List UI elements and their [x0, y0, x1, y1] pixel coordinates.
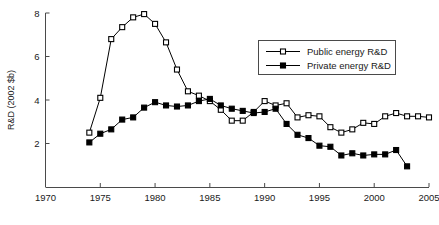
data-point-marker: [131, 115, 136, 120]
data-point-marker: [87, 130, 92, 135]
chart-container: 2468 19701975198019851990199520002005 R&…: [0, 0, 439, 225]
data-point-marker: [153, 21, 158, 26]
data-point-marker: [196, 93, 201, 98]
y-tick-label: 8: [34, 8, 39, 19]
y-tick-label: 4: [34, 95, 39, 106]
x-tick-label: 1970: [35, 192, 56, 203]
data-point-marker: [229, 118, 234, 123]
data-point-marker: [262, 109, 267, 114]
data-point-marker: [131, 15, 136, 20]
x-tick-label: 1995: [309, 192, 330, 203]
data-point-marker: [350, 151, 355, 156]
data-point-marker: [306, 113, 311, 118]
legend-sample-marker: [281, 49, 286, 54]
data-point-marker: [427, 115, 432, 120]
data-point-marker: [284, 101, 289, 106]
data-point-marker: [328, 125, 333, 130]
data-point-marker: [142, 105, 147, 110]
data-point-marker: [98, 131, 103, 136]
y-tick-label: 2: [34, 138, 39, 149]
data-point-marker: [120, 25, 125, 30]
data-point-marker: [317, 143, 322, 148]
data-series-group: [87, 12, 432, 169]
data-point-marker: [251, 111, 256, 116]
data-point-marker: [361, 120, 366, 125]
energy-rd-line-chart: 2468 19701975198019851990199520002005 R&…: [0, 0, 439, 225]
x-tick-label: 2000: [364, 192, 385, 203]
data-point-marker: [174, 104, 179, 109]
data-point-marker: [218, 103, 223, 108]
data-point-marker: [98, 95, 103, 100]
x-tick-label: 1980: [145, 192, 166, 203]
data-point-marker: [339, 153, 344, 158]
x-tick-label: 2005: [418, 192, 439, 203]
data-point-marker: [164, 40, 169, 45]
x-axis-ticks: 19701975198019851990199520002005: [35, 183, 439, 203]
y-axis-ticks: 2468: [34, 8, 49, 150]
data-point-marker: [361, 153, 366, 158]
data-point-marker: [328, 144, 333, 149]
data-point-marker: [339, 130, 344, 135]
legend-label: Private energy R&D: [307, 60, 391, 71]
data-point-marker: [240, 118, 245, 123]
series-line: [89, 99, 407, 166]
data-point-marker: [295, 132, 300, 137]
data-point-marker: [164, 103, 169, 108]
data-point-marker: [262, 99, 267, 104]
data-point-marker: [405, 114, 410, 119]
data-point-marker: [240, 108, 245, 113]
data-point-marker: [229, 106, 234, 111]
data-point-marker: [87, 140, 92, 145]
data-point-marker: [142, 12, 147, 17]
legend-sample-marker: [281, 63, 286, 68]
data-point-marker: [372, 152, 377, 157]
data-point-marker: [109, 37, 114, 42]
data-point-marker: [350, 127, 355, 132]
data-point-marker: [185, 103, 190, 108]
x-tick-label: 1990: [254, 192, 275, 203]
data-point-marker: [394, 111, 399, 116]
data-point-marker: [174, 67, 179, 72]
series-private-energy-rd: [87, 96, 410, 168]
data-point-marker: [207, 96, 212, 101]
x-tick-label: 1975: [90, 192, 111, 203]
data-point-marker: [317, 114, 322, 119]
data-point-marker: [372, 121, 377, 126]
legend-label: Public energy R&D: [307, 46, 387, 57]
data-point-marker: [120, 117, 125, 122]
data-point-marker: [394, 148, 399, 153]
data-point-marker: [273, 106, 278, 111]
y-axis-title: R&D (2002 $b): [6, 70, 16, 130]
chart-legend: Public energy R&DPrivate energy R&D: [259, 41, 396, 75]
data-point-marker: [109, 127, 114, 132]
data-point-marker: [383, 114, 388, 119]
data-point-marker: [185, 89, 190, 94]
x-tick-label: 1985: [199, 192, 220, 203]
data-point-marker: [416, 114, 421, 119]
data-point-marker: [295, 115, 300, 120]
data-point-marker: [383, 152, 388, 157]
data-point-marker: [306, 136, 311, 141]
y-tick-label: 6: [34, 51, 39, 62]
data-point-marker: [405, 164, 410, 169]
data-point-marker: [284, 121, 289, 126]
data-point-marker: [153, 100, 158, 105]
data-point-marker: [196, 99, 201, 104]
